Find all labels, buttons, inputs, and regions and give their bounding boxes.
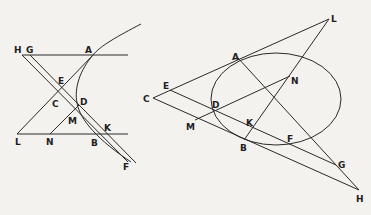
label-M: M: [68, 116, 77, 126]
diagram-canvas: H G A E C D M L N B K F L A N E C D M: [0, 0, 371, 215]
diagram-svg: H G A E C D M L N B K F L A N E C D M: [0, 0, 371, 215]
line-HF: [22, 55, 128, 162]
label-L: L: [331, 14, 337, 24]
label-A: A: [232, 52, 239, 62]
label-N: N: [46, 137, 54, 147]
line-LB: [244, 19, 329, 140]
right-figure: L A N E C D M K B F G H: [143, 14, 364, 204]
left-figure: H G A E C D M L N B K F: [14, 24, 141, 172]
line-LA: [17, 55, 93, 134]
label-E: E: [163, 81, 169, 91]
label-G: G: [26, 45, 33, 55]
line-CL: [153, 19, 329, 98]
label-G: G: [338, 160, 345, 170]
line-CH: [153, 98, 359, 190]
label-D: D: [212, 100, 219, 110]
line-MN: [195, 76, 290, 120]
label-N: N: [291, 76, 299, 86]
label-D: D: [80, 97, 87, 107]
label-M: M: [186, 122, 195, 132]
label-F: F: [287, 134, 293, 144]
label-K: K: [246, 118, 254, 128]
label-L: L: [15, 137, 21, 147]
label-C: C: [143, 94, 150, 104]
label-B: B: [91, 138, 98, 148]
label-H: H: [14, 45, 22, 55]
label-C: C: [52, 99, 59, 109]
label-E: E: [58, 76, 64, 86]
label-B: B: [240, 143, 247, 153]
label-A: A: [85, 45, 92, 55]
label-H: H: [356, 194, 364, 204]
label-K: K: [104, 123, 112, 133]
label-F: F: [123, 162, 129, 172]
